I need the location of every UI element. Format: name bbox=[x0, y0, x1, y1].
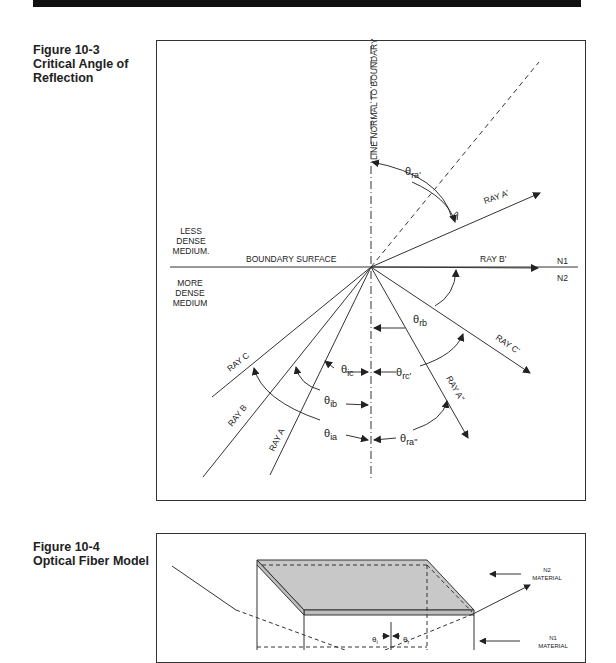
n1-label-2: MATERIAL bbox=[538, 643, 568, 649]
n2-cladding-top bbox=[257, 560, 474, 610]
theta-i: θi bbox=[372, 635, 378, 645]
n1-label-1: N1 bbox=[549, 635, 557, 641]
n2-label-1: N2 bbox=[543, 567, 551, 573]
n2-label-2: MATERIAL bbox=[532, 575, 562, 581]
theta-r: θr bbox=[403, 635, 409, 645]
